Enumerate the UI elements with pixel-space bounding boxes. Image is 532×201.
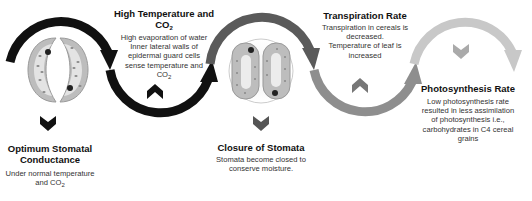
stage-photosynthesis: Photosynthesis Rate Low photosynthesis r…	[412, 83, 524, 143]
stage-title: Optimum Stomatal Conductance	[0, 143, 100, 165]
stage-high-temperature: High Temperature and CO2 High evaporatio…	[104, 8, 224, 79]
stage-closure: Closure of Stomata Stomata become closed…	[211, 142, 311, 173]
stage-description: Under normal temperature and CO2	[0, 169, 100, 187]
chevron-down-icon	[40, 116, 56, 131]
chevron-down-icon	[253, 116, 269, 131]
stage-description: High evaporation of water Inner lateral …	[104, 33, 224, 79]
stage-description: Stomata become closed to conserve moistu…	[211, 155, 311, 173]
arc-arrow-1	[10, 22, 118, 70]
chevron-up-icon	[352, 78, 368, 93]
chevron-down-icon	[453, 44, 469, 59]
stage-title: Closure of Stomata	[211, 142, 311, 153]
closed-stomata-illustration	[229, 39, 293, 103]
stage-description: Low photosynthesis rate resulted in less…	[412, 97, 524, 143]
stage-title: Photosynthesis Rate	[412, 83, 524, 94]
open-stomata-illustration	[28, 38, 88, 102]
stage-title: Transpiration Rate	[315, 10, 415, 21]
stage-description: Transpiration in cereals is decreased. T…	[315, 23, 415, 60]
stage-optimum: Optimum Stomatal Conductance Under norma…	[0, 143, 100, 187]
chevron-up-icon	[147, 84, 163, 99]
stage-transpiration: Transpiration Rate Transpiration in cere…	[315, 10, 415, 60]
stage-title: High Temperature and CO2	[104, 8, 224, 30]
